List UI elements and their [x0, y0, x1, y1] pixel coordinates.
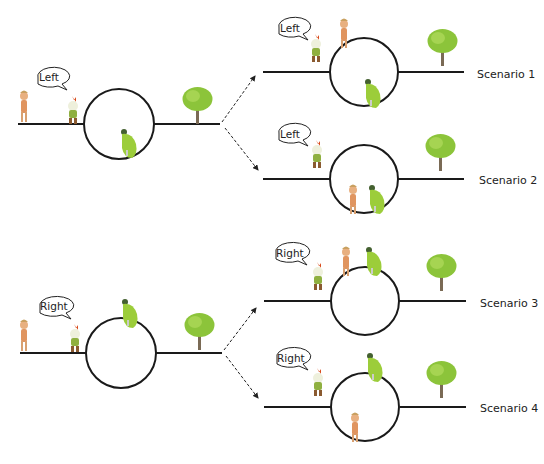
chicken-figure-icon [312, 140, 322, 168]
speech-bubble: Right [276, 242, 310, 265]
person-figure-icon [342, 247, 350, 277]
speech-bubble: Right [40, 296, 74, 319]
chicken-figure-icon [313, 368, 323, 396]
branch-arrow-up [224, 308, 256, 350]
tree-icon [427, 361, 457, 398]
speech-text: Left [280, 22, 300, 34]
speech-bubble: Right [277, 347, 311, 370]
loop-circle [86, 318, 156, 388]
chicken-figure-icon [311, 34, 321, 62]
frog-figure-icon [121, 129, 137, 158]
speech-bubble: Left [279, 123, 311, 146]
scenario-panel-4: Right Scenario 4 [264, 347, 538, 442]
loop-circle [330, 38, 398, 106]
chicken-figure-icon [70, 324, 80, 352]
speech-text: Right [40, 300, 68, 312]
scenario-panel-2: Left Scenario 2 [263, 123, 537, 214]
scenario-panel-1: Left Scenario 1 [263, 17, 535, 108]
frog-figure-icon [369, 185, 385, 214]
scenario-label: Scenario 4 [480, 402, 538, 415]
speech-text: Left [39, 71, 59, 83]
scenario-label: Scenario 3 [480, 297, 538, 310]
person-figure-icon [349, 185, 357, 215]
frog-figure-icon [122, 299, 138, 328]
scenario-label: Scenario 2 [479, 174, 537, 187]
branch-arrow-down [226, 356, 258, 398]
chicken-figure-icon [68, 96, 78, 124]
speech-text: Right [277, 352, 305, 364]
loop-circle [331, 373, 399, 441]
person-figure-icon [20, 320, 28, 352]
person-figure-icon [351, 413, 359, 443]
loop-circle [84, 89, 154, 159]
branch-arrow-down [225, 128, 258, 170]
scenario-diagram: Left [0, 0, 544, 464]
speech-bubble: Left [279, 17, 311, 40]
scenario-label: Scenario 1 [477, 68, 535, 81]
frog-figure-icon [367, 353, 383, 382]
branch-arrow-up [222, 76, 255, 122]
person-figure-icon [20, 91, 28, 123]
frog-figure-icon [366, 247, 382, 276]
tree-icon [185, 313, 215, 350]
speech-bubble: Left [38, 67, 70, 90]
speech-text: Left [280, 128, 300, 140]
loop-circle [330, 145, 398, 213]
chicken-figure-icon [313, 262, 323, 290]
speech-text: Right [276, 247, 304, 259]
tree-icon [427, 254, 457, 291]
tree-icon [183, 87, 213, 124]
scenario-panel-3: Right Scenario 3 [264, 242, 538, 335]
tree-icon [426, 134, 456, 171]
tree-icon [428, 29, 458, 66]
initial-panel-left: Left [18, 67, 258, 170]
frog-figure-icon [365, 79, 381, 108]
loop-circle [331, 267, 399, 335]
initial-panel-right: Right [20, 296, 258, 398]
